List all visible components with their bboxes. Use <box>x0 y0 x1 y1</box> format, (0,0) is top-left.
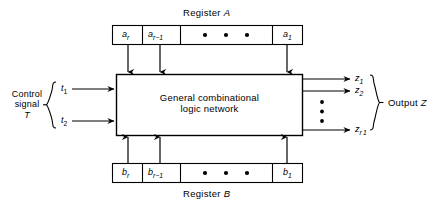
main-block-line2: logic network <box>116 104 303 115</box>
signal-sub: 2 <box>64 120 68 127</box>
cell-sub: 1 <box>288 172 292 179</box>
cell-sub: r <box>127 34 129 41</box>
register-b-input-arrows <box>128 137 287 163</box>
register-a-caption-italic: A <box>221 7 231 18</box>
signal-sub: 2 <box>360 90 364 97</box>
figure-canvas: RegisterA ar ar−1 a1 General combination… <box>0 0 437 212</box>
register-a-cell-a1: a1 <box>283 29 292 42</box>
output-caption-italic: Z <box>418 97 427 108</box>
register-b-caption-italic: B <box>221 188 231 199</box>
output-caption: OutputZ <box>388 98 427 109</box>
cell-sub: r <box>127 172 129 179</box>
control-signal-t1: t1 <box>61 83 67 96</box>
register-b-cell-br: br <box>122 167 129 180</box>
signal-sub: 1 <box>360 78 364 85</box>
output-arrows <box>303 79 351 130</box>
control-caption-line1: Control <box>8 89 46 99</box>
control-signal-t2: t2 <box>61 115 67 128</box>
cell-sub: 1 <box>288 34 292 41</box>
control-caption-line3: T <box>8 110 46 120</box>
register-b-cell-br-1: br−1 <box>148 167 163 180</box>
register-a-caption: RegisterA <box>183 8 230 19</box>
register-b-caption: RegisterB <box>183 189 230 200</box>
signal-sub: 1 <box>64 88 68 95</box>
register-b-caption-text: Register <box>183 188 221 199</box>
register-a-cell-ar-1: ar−1 <box>148 29 163 42</box>
control-input-arrows <box>72 89 114 121</box>
control-caption-line2: signal <box>8 99 46 109</box>
register-b-box <box>113 164 303 183</box>
register-a-caption-text: Register <box>183 7 221 18</box>
main-block-label: General combinational logic network <box>116 93 303 115</box>
output-signal-zr1: zr 1 <box>355 124 367 137</box>
register-a-input-arrows <box>128 45 287 73</box>
register-b-cell-b1: b1 <box>283 167 292 180</box>
signal-sub: r 1 <box>360 129 367 136</box>
output-ellipsis <box>320 100 324 123</box>
register-a-box <box>113 26 303 45</box>
cell-sub: r−1 <box>153 172 163 179</box>
register-a-cell-ar: ar <box>122 29 129 42</box>
control-signal-caption: Control signal T <box>8 89 46 120</box>
output-brace <box>370 75 384 130</box>
cell-sub: r−1 <box>153 34 163 41</box>
output-caption-text: Output <box>388 97 418 108</box>
output-signal-z2: z2 <box>355 85 363 98</box>
output-signal-z1: z1 <box>355 73 363 86</box>
